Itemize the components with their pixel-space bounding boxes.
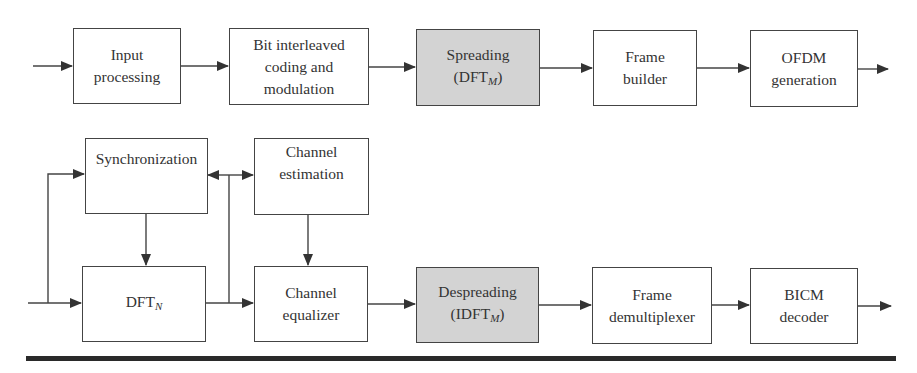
block-label: processing [94,66,160,88]
block-channel-estimation: Channel estimation [254,138,369,215]
block-label: Channel [286,141,338,163]
bottom-rule-divider [26,356,896,361]
block-channel-equalizer: Channel equalizer [254,266,368,342]
block-label: estimation [279,163,344,185]
block-label: BICM [784,284,824,306]
block-label: equalizer [283,304,340,326]
block-label: decoder [779,306,828,328]
block-label: Spreading [447,44,510,66]
block-synchronization: Synchronization [85,138,208,214]
block-input-processing: Input processing [73,28,181,104]
block-label-formula: (IDFTM) [451,303,505,329]
block-label: generation [771,69,836,91]
block-spreading: Spreading (DFTM) [416,29,540,106]
block-label: modulation [264,78,335,100]
block-label: Channel [285,282,337,304]
block-label: Bit interleaved [253,34,345,56]
block-label: Input [111,44,144,66]
block-label: coding and [265,56,333,78]
block-label-formula: DFTN [126,291,163,317]
block-label: Frame [632,284,672,306]
block-despreading: Despreading (IDFTM) [416,267,539,343]
block-bit-interleaved-coding-modulation: Bit interleaved coding and modulation [229,28,369,105]
block-label: Synchronization [96,148,198,170]
block-label: OFDM [782,47,827,69]
block-label: Despreading [438,281,516,303]
block-frame-builder: Frame builder [593,30,697,106]
block-ofdm-generation: OFDM generation [750,30,858,107]
block-label: Frame [625,46,665,68]
block-label: demultiplexer [609,306,695,328]
block-frame-demultiplexer: Frame demultiplexer [592,267,712,344]
block-dft-n: DFTN [82,266,206,342]
block-bicm-decoder: BICM decoder [750,268,858,344]
block-label: builder [623,68,667,90]
block-label-formula: (DFTM) [454,66,503,92]
